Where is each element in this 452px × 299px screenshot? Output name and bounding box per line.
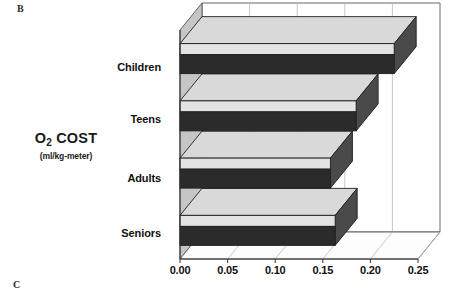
bar-teens bbox=[180, 74, 378, 131]
figure-panel: B C O2 COST (ml/kg-meter) Children Teens… bbox=[0, 0, 452, 299]
chart-canvas bbox=[0, 0, 452, 299]
bar-front-face-dark bbox=[180, 112, 356, 131]
x-tick-label: 0.25 bbox=[395, 264, 441, 276]
x-tick-label: 0.20 bbox=[347, 264, 393, 276]
bar-seniors bbox=[180, 188, 357, 245]
bar-front-face-light bbox=[180, 215, 335, 226]
bar-chart-plot: Children Teens Adults Seniors 0.000.050.… bbox=[0, 0, 452, 299]
bar-top-face bbox=[180, 188, 357, 215]
bar-front-face-light bbox=[180, 44, 394, 55]
bar-top-face bbox=[180, 74, 378, 101]
bar-front-face-light bbox=[180, 158, 330, 169]
x-tick-label: 0.10 bbox=[252, 264, 298, 276]
x-tick-label: 0.15 bbox=[300, 264, 346, 276]
category-label-children: Children bbox=[85, 61, 161, 73]
bar-top-face bbox=[180, 17, 416, 44]
category-label-teens: Teens bbox=[85, 113, 161, 125]
bar-front-face-light bbox=[180, 101, 356, 112]
bar-front-face-dark bbox=[180, 226, 335, 245]
x-tick-label: 0.00 bbox=[157, 264, 203, 276]
bar-front-face-dark bbox=[180, 169, 330, 188]
bar-children bbox=[180, 17, 416, 74]
bar-front-face-dark bbox=[180, 55, 394, 74]
category-label-adults: Adults bbox=[85, 172, 161, 184]
bar-adults bbox=[180, 131, 352, 188]
x-tick-label: 0.05 bbox=[205, 264, 251, 276]
bar-top-face bbox=[180, 131, 352, 158]
category-label-seniors: Seniors bbox=[85, 227, 161, 239]
